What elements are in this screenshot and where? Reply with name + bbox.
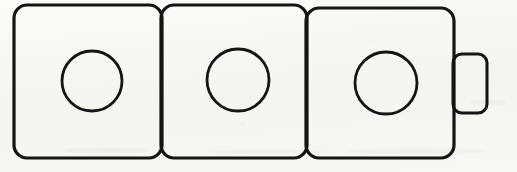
- cell-1-hole-circle-icon: [62, 51, 122, 111]
- cell-3-body[interactable]: [306, 8, 454, 158]
- line-drawing: [0, 0, 517, 172]
- cell-2-body[interactable]: [161, 5, 307, 158]
- cell-1-group[interactable]: [14, 5, 162, 158]
- cell-2-group[interactable]: [161, 5, 307, 158]
- cell-2-hole-circle-icon: [207, 49, 269, 111]
- side-tab[interactable]: [453, 54, 487, 113]
- diagram-canvas: [0, 0, 517, 172]
- cell-3-body-group[interactable]: [306, 8, 454, 158]
- cell-3-hole-circle-icon: [355, 52, 417, 114]
- cell-1-body[interactable]: [14, 5, 162, 158]
- cell-3-group[interactable]: [453, 54, 487, 113]
